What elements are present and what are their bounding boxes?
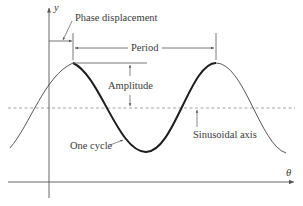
- phase-displacement-label: Phase displacement: [75, 12, 158, 23]
- sinusoid-diagram: y θ Phase displacement Period Amplitude …: [0, 0, 303, 206]
- y-axis-label: y: [53, 2, 59, 13]
- x-axis-label: θ: [286, 167, 291, 178]
- phase-pointer: [63, 21, 72, 40]
- one-cycle-label: One cycle: [70, 140, 113, 151]
- period-label: Period: [131, 42, 159, 53]
- amplitude-label: Amplitude: [108, 80, 153, 91]
- sinusoidal-axis-label: Sinusoidal axis: [193, 129, 257, 140]
